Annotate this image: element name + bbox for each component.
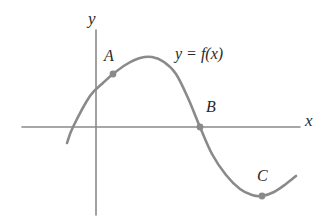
point-label-c: C	[257, 168, 268, 184]
function-graph-figure: y x A B C y = f(x)	[0, 0, 335, 224]
function-equation-label: y = f(x)	[175, 46, 223, 62]
y-axis-label: y	[88, 10, 96, 27]
point-label-b: B	[206, 99, 216, 115]
point-marker-b	[197, 124, 204, 131]
point-marker-c	[259, 193, 266, 200]
x-axis-label: x	[305, 112, 313, 129]
point-label-a: A	[104, 48, 114, 64]
point-marker-a	[110, 71, 117, 78]
graph-canvas	[0, 0, 335, 224]
